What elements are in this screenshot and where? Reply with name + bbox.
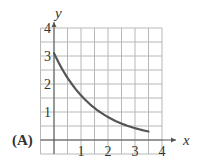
x-tick-label: 4 [159,144,166,159]
panel-label: (A) [12,132,33,149]
data-curve [54,53,149,131]
x-axis-arrow-icon [171,138,176,143]
y-axis-label: y [53,5,62,21]
y-axis-arrow-icon [52,22,57,27]
y-tick-label: 1 [44,105,51,120]
graph-panel: xy12341234(A) [0,0,199,166]
x-tick-label: 3 [132,144,139,159]
y-tick-label: 3 [44,49,51,64]
y-tick-label: 2 [44,77,51,92]
y-tick-label: 4 [44,21,51,36]
x-tick-label: 2 [105,144,112,159]
x-tick-label: 1 [78,144,85,159]
x-axis-label: x [182,132,190,148]
